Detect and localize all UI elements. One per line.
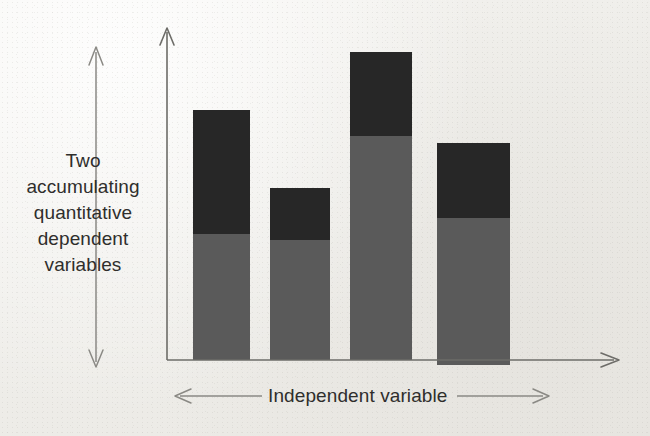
bar-3-lower-segment[interactable]: [350, 136, 412, 360]
bar-group-2[interactable]: [270, 188, 330, 360]
bar-2-upper-segment[interactable]: [270, 188, 330, 240]
x-axis-label: Independent variable: [262, 385, 453, 407]
bar-1-lower-segment[interactable]: [193, 234, 250, 360]
y-axis-label: Two accumulating quantitative dependent …: [8, 148, 158, 278]
bar-1-upper-segment[interactable]: [193, 110, 250, 234]
bar-group-4[interactable]: [437, 143, 510, 365]
bar-3-upper-segment[interactable]: [350, 52, 412, 136]
bar-4-upper-segment[interactable]: [437, 143, 510, 218]
bar-4-lower-segment[interactable]: [437, 218, 510, 365]
chart-figure: Two accumulating quantitative dependent …: [0, 0, 650, 436]
bar-group-3[interactable]: [350, 52, 412, 360]
bar-group-1[interactable]: [193, 110, 250, 360]
bar-2-lower-segment[interactable]: [270, 240, 330, 360]
